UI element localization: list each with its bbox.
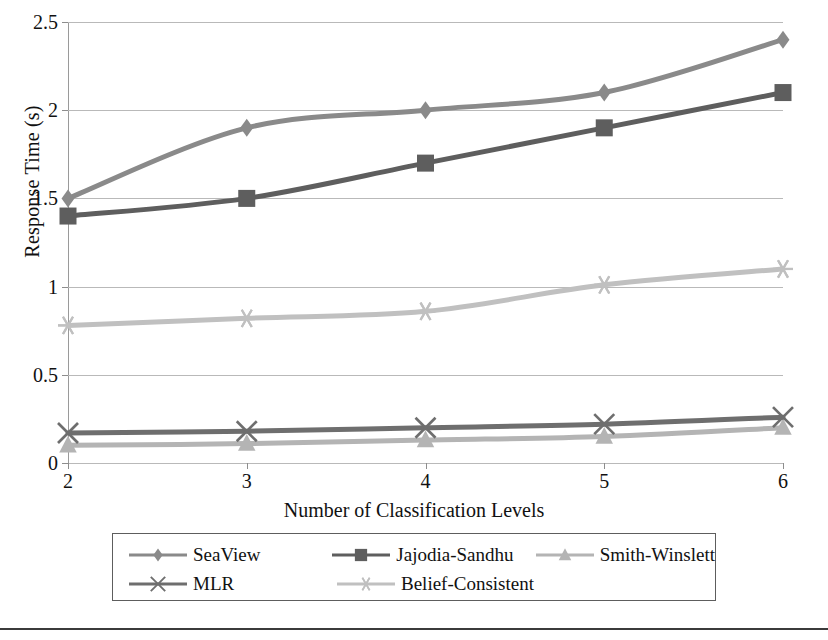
bottom-divider [0, 628, 828, 630]
x-tick-label: 3 [227, 470, 267, 493]
legend-item-jajodia-sandhu[interactable]: Jajodia-Sandhu [316, 540, 519, 569]
legend-item-belief-consistent[interactable]: Belief-Consistent [321, 569, 534, 598]
x-tick-mark [783, 463, 784, 469]
legend-label: SeaView [193, 544, 260, 566]
star-marker [335, 573, 397, 595]
x-tick-label: 6 [763, 470, 803, 493]
chart-figure: Response Time (s) 00.511.522.5 23456 Num… [0, 0, 828, 640]
legend-label: Smith-Winslett [600, 544, 715, 566]
square-marker [60, 208, 77, 225]
series-line [68, 269, 783, 325]
series-seaview [62, 31, 790, 208]
square-marker [596, 119, 613, 136]
y-tick-label: 1.5 [12, 187, 58, 210]
diamond-marker [240, 119, 253, 137]
series-layer [68, 22, 783, 463]
star-marker [416, 303, 436, 320]
star-marker [237, 310, 257, 327]
x-tick-label: 2 [48, 470, 88, 493]
y-tick-label: 2 [12, 99, 58, 122]
y-tick-label: 0.5 [12, 363, 58, 386]
cross-marker [127, 573, 189, 595]
x-tick-label: 4 [406, 470, 446, 493]
x-tick-mark [604, 463, 605, 469]
x-axis-title: Number of Classification Levels [0, 499, 828, 522]
square-marker [238, 190, 255, 207]
diamond-marker [598, 84, 611, 102]
legend-label: MLR [193, 573, 234, 595]
diamond-marker [153, 548, 162, 561]
x-tick-mark [247, 463, 248, 469]
diamond-marker [777, 31, 790, 49]
legend-label: Belief-Consistent [401, 573, 534, 595]
x-tick-mark [68, 463, 69, 469]
triangle-marker [534, 544, 596, 566]
legend-item-smith-winslett[interactable]: Smith-Winslett [520, 540, 715, 569]
x-tick-label: 5 [584, 470, 624, 493]
chart-legend: SeaViewJajodia-SandhuSmith-WinslettMLRBe… [112, 533, 716, 601]
star-marker [359, 577, 373, 589]
square-marker [355, 548, 367, 560]
star-marker [773, 260, 793, 277]
star-marker [58, 317, 78, 334]
y-tick-label: 1 [12, 275, 58, 298]
legend-row: MLRBelief-Consistent [113, 569, 715, 598]
legend-label: Jajodia-Sandhu [396, 544, 513, 566]
x-tick-mark [426, 463, 427, 469]
diamond-marker [127, 544, 189, 566]
y-tick-label: 2.5 [12, 11, 58, 34]
square-marker [330, 544, 392, 566]
square-marker [775, 84, 792, 101]
diamond-marker [62, 189, 75, 207]
legend-row: SeaViewJajodia-SandhuSmith-Winslett [113, 540, 715, 569]
plot-area [68, 22, 783, 463]
series-belief-consistent [58, 260, 793, 334]
star-marker [594, 276, 614, 293]
legend-item-seaview[interactable]: SeaView [113, 540, 316, 569]
legend-item-mlr[interactable]: MLR [113, 569, 321, 598]
diamond-marker [419, 101, 432, 119]
square-marker [417, 155, 434, 172]
